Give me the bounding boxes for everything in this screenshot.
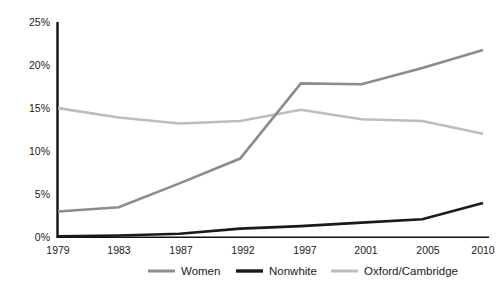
x-tick-label-2001: 2001 — [354, 244, 378, 256]
line-chart: 25% 20% 15% 10% 5% 0% 1979 1983 1987 199… — [0, 0, 503, 290]
y-tick-label-10: 10% — [29, 145, 50, 157]
y-tick-label-15: 15% — [29, 102, 50, 114]
chart-legend: Women Nonwhite Oxford/Cambridge — [148, 265, 458, 277]
x-tick-label-1979: 1979 — [46, 244, 70, 256]
legend-label-nonwhite: Nonwhite — [269, 265, 317, 277]
y-tick-label-0: 0% — [35, 231, 50, 243]
y-tick-label-25: 25% — [29, 16, 50, 28]
x-tick-label-1987: 1987 — [169, 244, 193, 256]
x-tick-label-2010: 2010 — [471, 244, 495, 256]
x-tick-label-2005: 2005 — [416, 244, 440, 256]
x-tick-label-1983: 1983 — [107, 244, 131, 256]
y-tick-label-20: 20% — [29, 59, 50, 71]
chart-page: 25% 20% 15% 10% 5% 0% 1979 1983 1987 199… — [0, 0, 503, 290]
legend-label-women: Women — [181, 265, 220, 277]
x-tick-label-1992: 1992 — [231, 244, 255, 256]
legend-label-oxford-cambridge: Oxford/Cambridge — [364, 265, 458, 277]
x-tick-label-1997: 1997 — [293, 244, 317, 256]
y-tick-label-5: 5% — [35, 188, 50, 200]
